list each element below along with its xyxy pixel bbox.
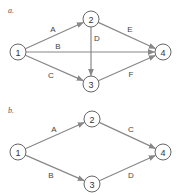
edge-label: D <box>94 34 100 43</box>
edge-label: C <box>128 125 134 134</box>
node-label: 4 <box>160 148 165 158</box>
node-label: 4 <box>160 48 165 58</box>
edge-label: A <box>50 25 56 34</box>
edge-b-arrow <box>25 155 84 180</box>
edge-label: F <box>129 70 134 79</box>
edge-label: B <box>48 171 53 180</box>
node-2: 2 <box>83 11 99 27</box>
diagram-b: b. ABCD 1234 <box>8 106 171 192</box>
diagram-a: a. ABCDEF 1234 <box>8 6 171 92</box>
panel-label-a: a. <box>8 6 14 15</box>
node-label: 1 <box>15 148 20 158</box>
edge-label: B <box>55 42 60 51</box>
edge-c-arrow <box>25 55 83 80</box>
edge-label: E <box>127 25 132 34</box>
node-1: 1 <box>10 144 26 160</box>
edge-label: A <box>51 125 57 134</box>
node-1: 1 <box>10 44 26 60</box>
edge-label: D <box>128 171 134 180</box>
nodes-b: 1234 <box>10 111 171 192</box>
node-label: 3 <box>89 180 94 190</box>
edge-f-arrow <box>98 55 155 80</box>
node-4: 4 <box>155 144 171 160</box>
node-3: 3 <box>83 76 99 92</box>
node-3: 3 <box>84 176 100 192</box>
node-label: 1 <box>15 48 20 58</box>
edges-b: ABCD <box>25 122 155 180</box>
edges-a: ABCDEF <box>25 22 155 80</box>
node-label: 2 <box>88 15 93 25</box>
node-4: 4 <box>155 44 171 60</box>
network-diagrams: a. ABCDEF 1234 b. ABCD 1234 <box>0 0 178 195</box>
edge-label: C <box>48 71 54 80</box>
node-label: 2 <box>89 115 94 125</box>
node-label: 3 <box>88 80 93 90</box>
panel-label-b: b. <box>8 106 14 115</box>
node-2: 2 <box>84 111 100 127</box>
